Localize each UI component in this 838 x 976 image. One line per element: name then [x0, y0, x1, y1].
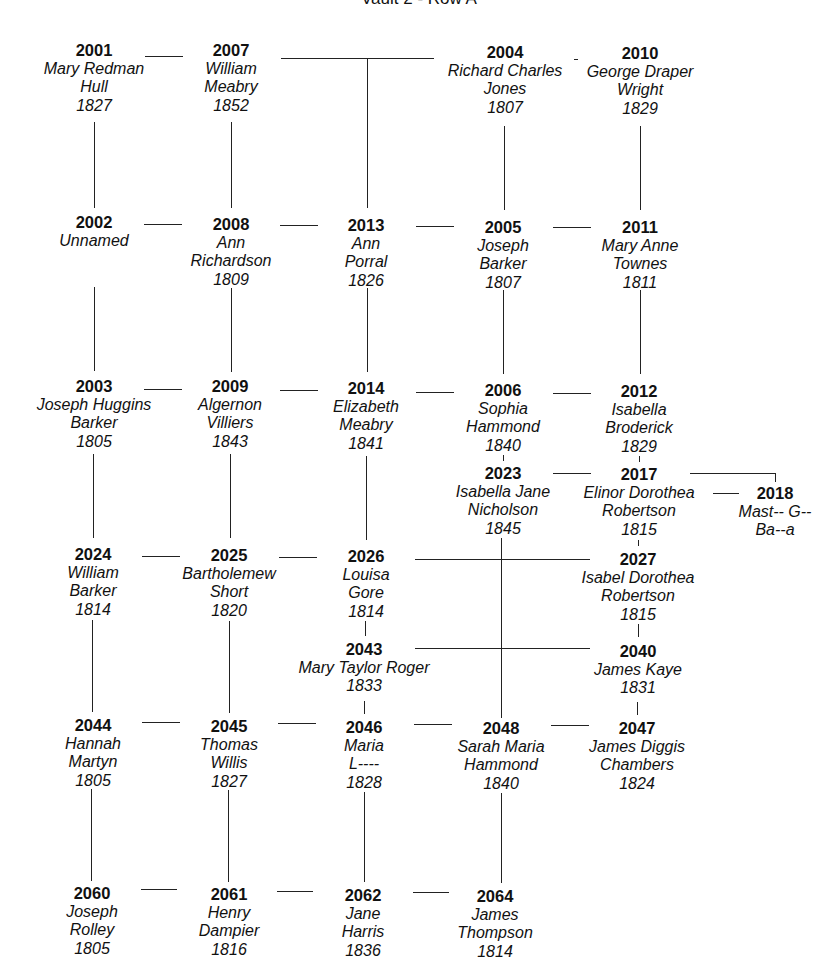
connector: [638, 624, 639, 637]
connector: [504, 126, 505, 210]
connector: [637, 702, 638, 715]
plot-number: 2011: [560, 218, 720, 237]
connector: [364, 701, 365, 714]
occupant-text: 1824: [557, 775, 717, 794]
occupant-text: 1833: [284, 677, 444, 696]
plot-node: 2040James Kaye1831: [558, 642, 718, 698]
plot-number: 2060: [12, 884, 172, 903]
connector: [639, 456, 640, 462]
occupant-text: Ann: [286, 235, 446, 254]
occupant-text: Ba--a: [695, 521, 838, 540]
connector: [638, 540, 639, 546]
connector: [501, 793, 502, 883]
occupant-text: Gore: [286, 584, 446, 603]
occupant-text: Porral: [286, 253, 446, 272]
plot-number: 2026: [286, 547, 446, 566]
occupant-text: Isabel Dorothea: [558, 569, 718, 588]
occupant-text: Louisa: [286, 566, 446, 585]
occupant-text: Wright: [560, 81, 720, 100]
plot-number: 2064: [415, 887, 575, 906]
connector: [501, 538, 502, 718]
occupant-text: Meabry: [286, 416, 446, 435]
occupant-text: L----: [284, 755, 444, 774]
plot-node: 2064JamesThompson1814: [415, 887, 575, 961]
connector: [230, 454, 231, 538]
occupant-text: 1852: [151, 97, 311, 116]
occupant-text: 1826: [286, 272, 446, 291]
connector: [367, 288, 368, 372]
plot-node: 2047James DiggisChambers1824: [557, 719, 717, 793]
diagram-title: Vault 2 - Row A: [0, 0, 838, 9]
occupant-text: Robertson: [558, 587, 718, 606]
plot-node: 2018Mast-- G--Ba--a: [695, 484, 838, 540]
plot-number: 2043: [284, 640, 444, 659]
connector: [366, 456, 367, 540]
occupant-text: Mary Taylor Roger: [284, 659, 444, 678]
occupant-text: 1805: [12, 940, 172, 959]
connector: [775, 473, 776, 482]
plot-node: 2027Isabel DorotheaRobertson1815: [558, 550, 718, 624]
connector: [91, 789, 92, 881]
plot-node: 2012IsabellaBroderick1829: [559, 382, 719, 456]
connector: [365, 621, 366, 636]
occupant-text: William: [151, 60, 311, 79]
occupant-text: Barker: [423, 255, 583, 274]
occupant-text: 1841: [286, 435, 446, 454]
occupant-text: 1829: [559, 438, 719, 457]
plot-node: 2007WilliamMeabry1852: [151, 41, 311, 115]
occupant-text: Bartholemew: [149, 565, 309, 584]
occupant-text: Short: [149, 583, 309, 602]
plot-number: 2002: [14, 213, 174, 232]
occupant-text: 1815: [558, 606, 718, 625]
plot-number: 2046: [284, 718, 444, 737]
occupant-text: 1814: [415, 943, 575, 962]
plot-node: 2005JosephBarker1807: [423, 218, 583, 292]
occupant-text: Townes: [560, 255, 720, 274]
plot-node: 2026LouisaGore1814: [286, 547, 446, 621]
plot-number: 2014: [286, 379, 446, 398]
occupant-text: Maria: [284, 737, 444, 756]
plot-node: 2014ElizabethMeabry1841: [286, 379, 446, 453]
plot-node: 2060JosephRolley1805: [12, 884, 172, 958]
occupant-text: Mast-- G--: [695, 503, 838, 522]
occupant-text: Mary Anne: [560, 237, 720, 256]
plot-node: 2011Mary AnneTownes1811: [560, 218, 720, 292]
occupant-text: 1807: [423, 274, 583, 293]
plot-number: 2012: [559, 382, 719, 401]
occupant-text: 1827: [14, 97, 174, 116]
plot-number: 2001: [14, 41, 174, 60]
connector: [503, 290, 504, 374]
occupant-text: Elizabeth: [286, 398, 446, 417]
plot-number: 2005: [423, 218, 583, 237]
plot-node: 2002Unnamed: [14, 213, 174, 250]
plot-number: 2018: [695, 484, 838, 503]
occupant-text: James Kaye: [558, 661, 718, 680]
connector: [94, 287, 95, 371]
occupant-text: Hull: [14, 78, 174, 97]
connector: [94, 122, 95, 208]
connector: [364, 792, 365, 882]
plot-number: 2013: [286, 216, 446, 235]
plot-node: 2043Mary Taylor Roger1833: [284, 640, 444, 696]
occupant-text: 1820: [149, 602, 309, 621]
plot-node: 2025BartholemewShort1820: [149, 546, 309, 620]
connector: [231, 122, 232, 208]
occupant-text: 1814: [286, 603, 446, 622]
occupant-text: Unnamed: [14, 232, 174, 251]
connector: [640, 290, 641, 374]
occupant-text: 1831: [558, 679, 718, 698]
occupant-text: James: [415, 906, 575, 925]
connector: [228, 790, 229, 882]
occupant-text: 1811: [560, 274, 720, 293]
occupant-text: George Draper: [560, 63, 720, 82]
occupant-text: 1828: [284, 774, 444, 793]
connector: [231, 288, 232, 372]
plot-number: 2010: [560, 44, 720, 63]
occupant-text: Joseph: [12, 903, 172, 922]
plot-number: 2017: [559, 465, 719, 484]
plot-node: 2010George DraperWright1829: [560, 44, 720, 118]
connector: [92, 620, 93, 712]
connector: [229, 621, 230, 713]
occupant-text: Chambers: [557, 756, 717, 775]
occupant-text: Meabry: [151, 78, 311, 97]
